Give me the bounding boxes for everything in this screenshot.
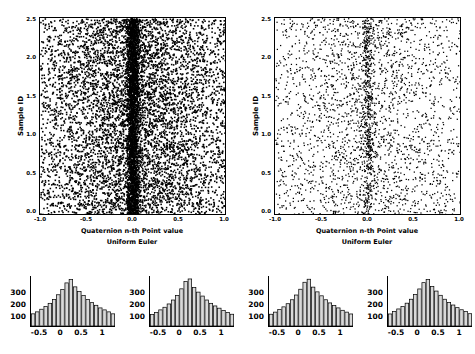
hist-4-bars: [388, 276, 472, 326]
right-scatter-ytick-3: 1.5: [249, 93, 271, 99]
hist-2-plot-area: [149, 276, 234, 327]
right-scatter-plot-area: [274, 17, 461, 215]
hist-1-plot-area: [30, 276, 115, 327]
left-scatter-xtick-2: 0.0: [121, 216, 143, 222]
scatter-panel-right: Sample ID 0.0 0.5 1.0 1.5 2.0 2.5 -1.0 -…: [235, 0, 475, 250]
histogram-panel-4: 300 200 100 -0.5 0 0.5 1: [357, 272, 475, 354]
right-scatter-points: [275, 18, 460, 214]
left-scatter-xtick-4: 1.0: [213, 216, 235, 222]
right-scatter-xtick-4: 1.0: [448, 216, 470, 222]
left-scatter-ytick-5: 2.5: [14, 16, 36, 22]
hist-2-xtick-3: 1: [209, 328, 233, 337]
left-scatter-xlabel2: Uniform Euler: [41, 238, 223, 246]
right-scatter-ytick-0: 0.0: [249, 208, 271, 214]
hist-1-bars: [31, 276, 115, 326]
hist-3-ytick-2: 300: [240, 288, 264, 297]
left-scatter-ytick-4: 2.0: [14, 54, 36, 60]
left-scatter-ytick-1: 0.5: [14, 170, 36, 176]
left-scatter-ytick-0: 0.0: [14, 208, 36, 214]
hist-1-xtick-3: 1: [90, 328, 114, 337]
hist-4-plot-area: [387, 276, 472, 327]
right-scatter-xtick-1: -0.5: [310, 216, 332, 222]
hist-3-ytick-1: 200: [240, 300, 264, 309]
hist-2-ytick-1: 200: [121, 300, 145, 309]
hist-4-xtick-3: 1: [447, 328, 471, 337]
histogram-panel-2: 300 200 100 -0.5 0 0.5 1: [119, 272, 237, 354]
right-scatter-xtick-3: 0.5: [402, 216, 424, 222]
right-scatter-ytick-1: 0.5: [249, 170, 271, 176]
hist-1-ytick-1: 200: [2, 300, 26, 309]
right-scatter-xtick-2: 0.0: [356, 216, 378, 222]
left-scatter-ytick-2: 1.0: [14, 131, 36, 137]
hist-4-ytick-2: 300: [359, 288, 383, 297]
hist-1-ytick-2: 300: [2, 288, 26, 297]
histogram-panel-1: 300 200 100 -0.5 0 0.5 1: [0, 272, 118, 354]
right-scatter-xlabel2: Uniform Euler: [276, 238, 458, 246]
right-scatter-ytick-2: 1.0: [249, 131, 271, 137]
right-scatter-xtick-0: -1.0: [264, 216, 286, 222]
hist-3-plot-area: [268, 276, 353, 327]
hist-3-ytick-0: 100: [240, 312, 264, 321]
left-scatter-xtick-3: 0.5: [167, 216, 189, 222]
hist-2-bars: [150, 276, 234, 326]
left-scatter-xtick-0: -1.0: [29, 216, 51, 222]
scatter-panel-left: Sample ID 0.0 0.5 1.0 1.5 2.0 2.5 -1.0 -…: [0, 0, 240, 250]
hist-2-ytick-2: 300: [121, 288, 145, 297]
hist-1-ytick-0: 100: [2, 312, 26, 321]
left-scatter-xlabel: Quaternion n-th Point value: [41, 227, 223, 235]
right-scatter-ytick-4: 2.0: [249, 54, 271, 60]
right-scatter-ytick-5: 2.5: [249, 16, 271, 22]
left-scatter-ytick-3: 1.5: [14, 93, 36, 99]
hist-4-ytick-0: 100: [359, 312, 383, 321]
hist-4-ytick-1: 200: [359, 300, 383, 309]
right-scatter-xlabel: Quaternion n-th Point value: [276, 227, 458, 235]
figure-root: Sample ID 0.0 0.5 1.0 1.5 2.0 2.5 -1.0 -…: [0, 0, 475, 354]
hist-3-xtick-3: 1: [328, 328, 352, 337]
left-scatter-points: [40, 18, 225, 214]
hist-2-ytick-0: 100: [121, 312, 145, 321]
left-scatter-xtick-1: -0.5: [75, 216, 97, 222]
left-scatter-plot-area: [39, 17, 226, 215]
hist-3-bars: [269, 276, 353, 326]
histogram-panel-3: 300 200 100 -0.5 0 0.5 1: [238, 272, 356, 354]
